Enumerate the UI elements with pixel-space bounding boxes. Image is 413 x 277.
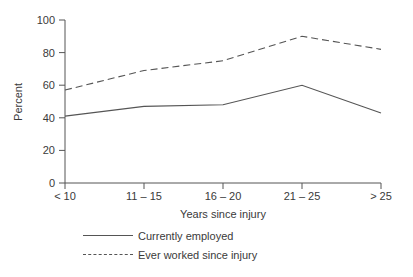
y-axis: 020406080100 — [37, 14, 65, 189]
x-tick-label: > 25 — [370, 190, 392, 202]
x-tick-label: 11 – 15 — [126, 190, 162, 202]
legend-item-currently-employed: Currently employed — [83, 226, 257, 245]
series-lines — [65, 36, 381, 116]
y-tick-label: 60 — [43, 79, 55, 91]
y-tick-label: 20 — [43, 144, 55, 156]
x-axis-title: Years since injury — [180, 208, 266, 220]
x-axis: < 1011 – 1516 – 2021 – 25> 25 — [54, 183, 392, 202]
y-tick-label: 100 — [37, 14, 55, 26]
y-tick-label: 0 — [49, 177, 55, 189]
legend-item-ever-worked: Ever worked since injury — [83, 245, 257, 264]
x-tick-label: 16 – 20 — [205, 190, 242, 202]
series-ever-worked-since-injury — [65, 36, 381, 90]
y-axis-title: Percent — [12, 83, 24, 121]
line-chart: 020406080100 < 1011 – 1516 – 2021 – 25> … — [0, 0, 413, 225]
legend-label: Currently employed — [138, 230, 233, 242]
y-tick-label: 40 — [43, 112, 55, 124]
legend-label: Ever worked since injury — [138, 249, 257, 261]
dashed-line-swatch — [83, 254, 133, 255]
series-currently-employed — [65, 85, 381, 116]
solid-line-swatch — [83, 235, 133, 236]
x-tick-label: < 10 — [54, 190, 76, 202]
y-tick-label: 80 — [43, 47, 55, 59]
legend: Currently employed Ever worked since inj… — [83, 226, 257, 264]
x-tick-label: 21 – 25 — [284, 190, 321, 202]
